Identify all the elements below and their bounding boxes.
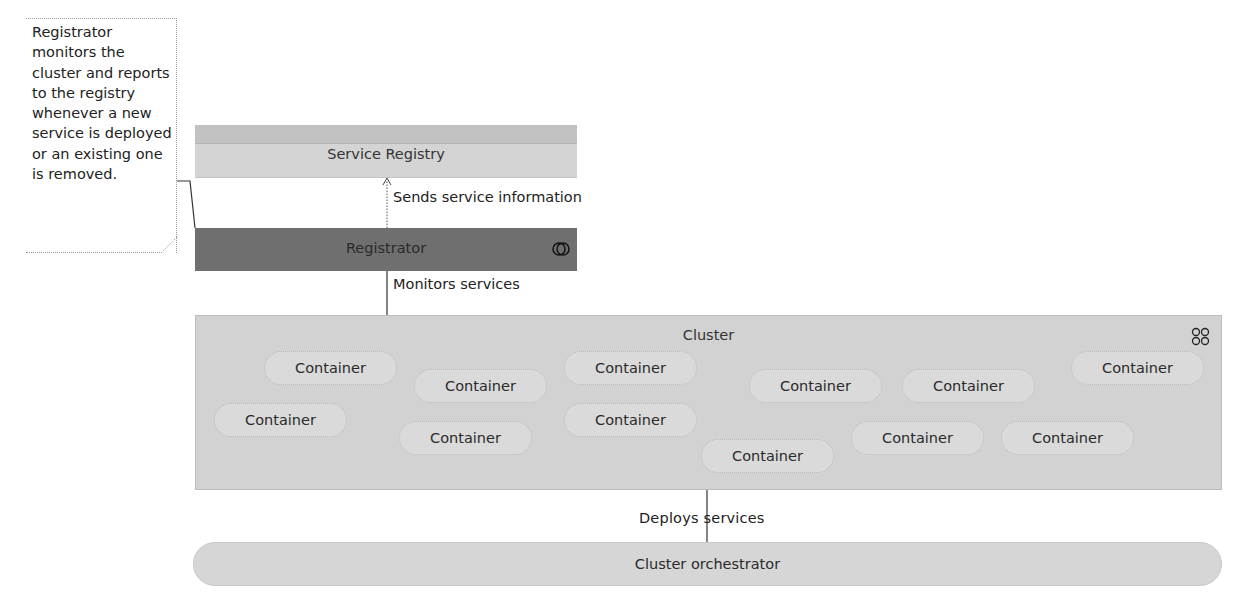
annotation-note-bottom-border — [26, 252, 162, 253]
edge-label-monitors-services: Monitors services — [393, 276, 520, 292]
container-node-7[interactable]: Container — [214, 403, 347, 437]
container-node-2[interactable]: Container — [414, 369, 547, 403]
container-node-5[interactable]: Container — [902, 369, 1035, 403]
container-node-3[interactable]: Container — [564, 351, 697, 385]
service-registry-label: Service Registry — [195, 146, 577, 162]
cluster-icon — [1191, 327, 1211, 347]
edge-label-deploys-services: Deploys services — [639, 510, 765, 526]
container-node-8[interactable]: Container — [399, 421, 532, 455]
registrator-label: Registrator — [195, 240, 577, 256]
edge-label-sends-service-information: Sends service information — [393, 189, 582, 205]
container-node-4[interactable]: Container — [749, 369, 882, 403]
cluster-label: Cluster — [196, 327, 1221, 343]
service-registry-node[interactable]: Service Registry — [195, 125, 577, 178]
process-icon — [551, 240, 571, 258]
cluster-orchestrator-node[interactable]: Cluster orchestrator — [193, 542, 1222, 586]
container-node-9[interactable]: Container — [564, 403, 697, 437]
annotation-note-text: Registrator monitors the cluster and rep… — [32, 22, 177, 184]
container-node-6[interactable]: Container — [1071, 351, 1204, 385]
container-node-12[interactable]: Container — [1001, 421, 1134, 455]
edge-label-deploys: Deploys services — [639, 510, 765, 526]
container-node-1[interactable]: Container — [264, 351, 397, 385]
connector-lines — [0, 0, 1248, 613]
cluster-node[interactable]: Cluster Container Container Container Co… — [195, 315, 1222, 490]
note-callout-line — [177, 181, 195, 228]
container-node-10[interactable]: Container — [701, 439, 834, 473]
service-registry-header — [195, 125, 577, 144]
registrator-node[interactable]: Registrator — [195, 228, 577, 271]
container-node-11[interactable]: Container — [851, 421, 984, 455]
